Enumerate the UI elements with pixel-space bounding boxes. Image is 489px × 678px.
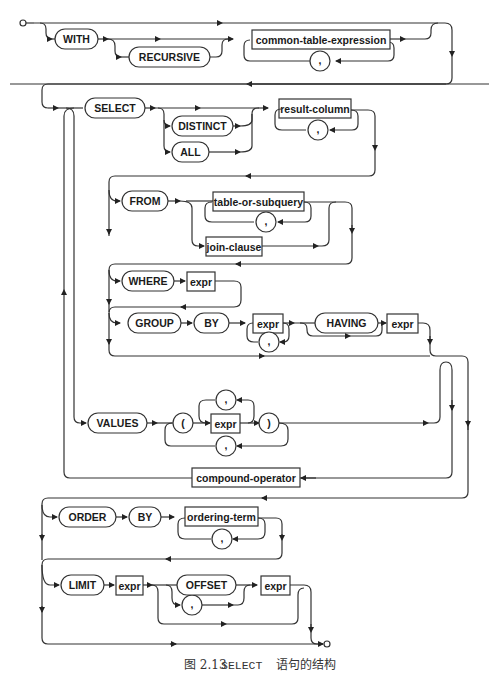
svg-text:ordering-term: ordering-term — [187, 511, 256, 523]
svg-text:,: , — [268, 335, 271, 347]
svg-text:,: , — [317, 123, 320, 135]
select-syntax-diagram: WITH RECURSIVE common-table-expression ,… — [0, 0, 489, 678]
svg-text:(: ( — [181, 417, 185, 429]
svg-text:expr: expr — [190, 276, 212, 288]
svg-text:,: , — [319, 54, 322, 66]
svg-text:VALUES: VALUES — [97, 417, 139, 429]
svg-text:expr: expr — [391, 318, 413, 330]
svg-text:,: , — [225, 393, 228, 405]
svg-text:): ) — [267, 417, 271, 429]
svg-text:GROUP: GROUP — [135, 317, 174, 329]
end-terminal — [324, 641, 330, 647]
svg-text:compound-operator: compound-operator — [196, 472, 296, 484]
svg-text:ALL: ALL — [180, 146, 201, 158]
svg-text:DISTINCT: DISTINCT — [178, 120, 227, 132]
svg-text:FROM: FROM — [130, 195, 161, 207]
where-clause-section: WHERE expr — [109, 270, 241, 313]
svg-text:expr: expr — [118, 580, 140, 592]
svg-text:BY: BY — [204, 317, 219, 329]
group-by-section: GROUP BY expr , HAVING expr — [109, 313, 468, 380]
compound-operator-section: compound-operator — [192, 468, 316, 487]
svg-text:SELECT: SELECT — [221, 659, 263, 672]
svg-text:expr: expr — [214, 418, 236, 430]
svg-text:LIMIT: LIMIT — [69, 579, 97, 591]
figure-caption: 图 2.13 SELECT 语句的结构 — [184, 657, 336, 672]
svg-text:RECURSIVE: RECURSIVE — [139, 51, 200, 63]
svg-text:HAVING: HAVING — [326, 317, 366, 329]
with-clause-section: WITH RECURSIVE common-table-expression , — [10, 20, 489, 108]
svg-text:WITH: WITH — [63, 33, 90, 45]
svg-text:expr: expr — [264, 580, 286, 592]
svg-text:,: , — [225, 439, 228, 451]
start-terminal — [20, 20, 26, 26]
svg-text:,: , — [191, 598, 194, 610]
svg-text:result-column: result-column — [280, 103, 349, 115]
svg-text:SELECT: SELECT — [94, 102, 136, 114]
svg-text:ORDER: ORDER — [69, 511, 107, 523]
order-by-section: ORDER BY ordering-term , — [42, 498, 282, 565]
svg-text:,: , — [221, 532, 224, 544]
from-clause-section: FROM table-or-subquery , join-clause — [109, 190, 352, 270]
svg-text:expr: expr — [257, 318, 279, 330]
svg-text:WHERE: WHERE — [128, 275, 167, 287]
svg-text:BY: BY — [138, 511, 153, 523]
svg-text:table-or-subquery: table-or-subquery — [214, 196, 303, 208]
svg-text:,: , — [265, 215, 268, 227]
svg-text:OFFSET: OFFSET — [186, 579, 228, 591]
svg-text:join-clause: join-clause — [206, 241, 262, 253]
limit-section: LIMIT expr , OFFSET expr — [42, 565, 330, 647]
svg-text:语句的结构: 语句的结构 — [276, 657, 336, 672]
svg-text:common-table-expression: common-table-expression — [256, 34, 387, 46]
